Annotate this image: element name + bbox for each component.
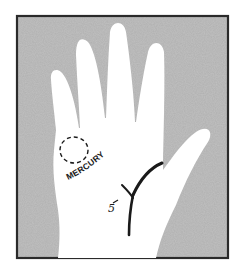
palm-diagram: MERCURY 5 — [0, 0, 242, 278]
line-marker-label: 5 — [108, 202, 115, 215]
